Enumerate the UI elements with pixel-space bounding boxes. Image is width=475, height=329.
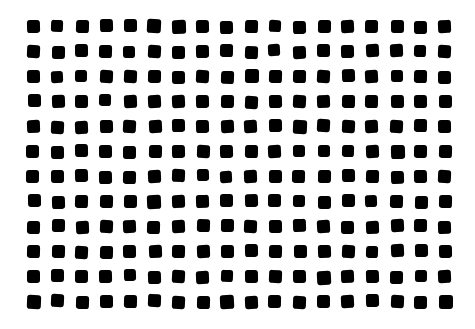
grid-square — [438, 169, 451, 182]
grid-square — [75, 144, 88, 157]
grid-square — [293, 145, 305, 157]
grid-square — [171, 169, 185, 183]
grid-square — [269, 119, 282, 132]
grid-square — [100, 219, 114, 233]
grid-square — [99, 45, 113, 59]
grid-square — [148, 170, 162, 184]
grid-square — [27, 94, 40, 107]
grid-square — [27, 295, 41, 309]
grid-square — [27, 245, 41, 259]
grid-square — [172, 270, 185, 283]
grid-square — [391, 70, 404, 83]
grid-square — [75, 20, 88, 33]
grid-square — [220, 120, 234, 134]
grid-square — [293, 219, 306, 232]
grid-square — [124, 70, 137, 83]
grid-square — [51, 120, 65, 134]
grid-square — [439, 245, 452, 258]
grid-square — [414, 20, 427, 33]
grid-square — [50, 70, 63, 83]
grid-square — [292, 170, 305, 183]
grid-square — [317, 244, 330, 257]
grid-square — [365, 95, 378, 108]
grid-square — [293, 70, 307, 84]
grid-square — [439, 145, 452, 158]
grid-square — [196, 120, 209, 133]
grid-square — [268, 44, 281, 57]
grid-square — [318, 170, 332, 184]
grid-square — [51, 269, 64, 282]
grid-square — [294, 245, 307, 258]
grid-square — [196, 20, 210, 34]
grid-square — [197, 295, 211, 309]
grid-square — [172, 46, 185, 59]
grid-square — [439, 295, 453, 309]
grid-square — [148, 294, 161, 307]
grid-square — [293, 120, 307, 134]
grid-square — [147, 19, 161, 33]
grid-square — [269, 170, 282, 183]
grid-square — [220, 71, 234, 85]
grid-square — [414, 219, 427, 232]
grid-square — [317, 20, 331, 34]
grid-square — [366, 245, 379, 258]
grid-square — [437, 119, 450, 132]
grid-square — [148, 45, 161, 58]
grid-square — [196, 94, 209, 107]
grid-square — [292, 295, 305, 308]
grid-square — [27, 20, 40, 33]
grid-square — [99, 94, 112, 107]
grid-square — [244, 120, 258, 134]
grid-square — [172, 220, 186, 234]
grid-square — [438, 19, 452, 33]
grid-square — [414, 170, 428, 184]
grid-square — [244, 219, 257, 232]
grid-square — [342, 194, 356, 208]
grid-square — [220, 170, 233, 183]
grid-square — [27, 120, 40, 133]
grid-square — [220, 145, 233, 158]
grid-square — [100, 246, 113, 259]
grid-square — [244, 295, 258, 309]
grid-square — [147, 271, 160, 284]
grid-square — [390, 271, 403, 284]
grid-square — [245, 270, 259, 284]
grid-square — [100, 194, 114, 208]
grid-square — [318, 145, 330, 157]
grid-square — [123, 95, 137, 109]
grid-square — [342, 95, 356, 109]
grid-square — [196, 169, 209, 182]
grid-square — [51, 294, 64, 307]
grid-square — [75, 95, 88, 108]
grid-square — [26, 45, 40, 59]
grid-square — [366, 44, 379, 57]
grid-square — [172, 119, 185, 132]
grid-square — [293, 20, 306, 33]
grid-square — [75, 169, 88, 182]
grid-square — [75, 120, 88, 133]
grid-square — [220, 44, 234, 58]
grid-square — [99, 70, 113, 84]
grid-square — [27, 70, 40, 83]
grid-square — [341, 145, 354, 158]
grid-square — [172, 195, 185, 208]
grid-square — [99, 269, 112, 282]
grid-square — [172, 144, 186, 158]
grid-square — [27, 270, 40, 283]
grid-square — [365, 195, 378, 208]
grid-square — [414, 195, 427, 208]
grid-square — [341, 270, 354, 283]
grid-square — [75, 44, 88, 57]
grid-square — [123, 171, 136, 184]
grid-square — [75, 195, 88, 208]
grid-square — [414, 95, 427, 108]
grid-square — [196, 70, 210, 84]
grid-square — [391, 20, 404, 33]
grid-square — [269, 70, 283, 84]
grid-square — [391, 95, 404, 108]
grid-square — [52, 219, 65, 232]
grid-square — [269, 220, 283, 234]
grid-square — [341, 245, 355, 259]
grid-square — [221, 270, 234, 283]
grid-square — [317, 95, 330, 108]
